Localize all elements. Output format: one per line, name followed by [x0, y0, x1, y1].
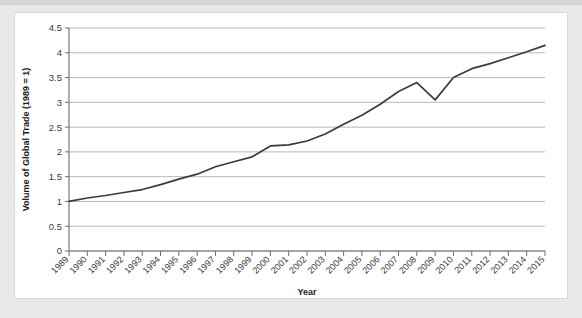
svg-text:2012: 2012 [470, 254, 491, 275]
svg-text:1991: 1991 [86, 254, 107, 275]
svg-text:1995: 1995 [159, 254, 180, 275]
svg-text:2002: 2002 [287, 254, 308, 275]
svg-text:1989: 1989 [49, 254, 70, 275]
svg-text:2014: 2014 [507, 254, 528, 275]
line-chart: 00.511.522.533.544.5 1989199019911992199… [15, 13, 567, 298]
svg-text:2001: 2001 [269, 254, 290, 275]
y-axis-title: Volume of Global Trade (1989 = 1) [21, 68, 31, 212]
svg-text:1.5: 1.5 [49, 171, 62, 182]
x-axis-ticks [69, 251, 545, 256]
chart-card: 00.511.522.533.544.5 1989199019911992199… [14, 12, 568, 299]
svg-text:2010: 2010 [434, 254, 455, 275]
svg-text:2007: 2007 [379, 254, 400, 275]
svg-text:0.5: 0.5 [49, 221, 62, 232]
svg-text:0: 0 [57, 245, 62, 256]
x-axis-title: Year [297, 287, 317, 297]
svg-text:2011: 2011 [452, 254, 473, 275]
svg-text:2008: 2008 [397, 254, 418, 275]
svg-text:2003: 2003 [305, 254, 326, 275]
svg-text:2005: 2005 [342, 254, 363, 275]
svg-text:3: 3 [57, 97, 62, 108]
y-axis-tick-labels: 00.511.522.533.544.5 [49, 22, 62, 256]
svg-text:3.5: 3.5 [49, 72, 62, 83]
svg-text:2006: 2006 [360, 254, 381, 275]
svg-text:1992: 1992 [104, 254, 125, 275]
svg-text:1997: 1997 [196, 254, 217, 275]
page-bottom-strip [0, 306, 582, 318]
svg-text:4: 4 [57, 47, 62, 58]
svg-text:4.5: 4.5 [49, 22, 62, 33]
svg-text:2: 2 [57, 146, 62, 157]
trade-volume-line [69, 45, 545, 201]
svg-text:1993: 1993 [122, 254, 143, 275]
svg-text:2000: 2000 [251, 254, 272, 275]
svg-text:1999: 1999 [232, 254, 253, 275]
chart-page: 00.511.522.533.544.5 1989199019911992199… [0, 0, 582, 318]
svg-text:1990: 1990 [67, 254, 88, 275]
svg-text:1994: 1994 [141, 254, 162, 275]
svg-text:2004: 2004 [324, 254, 345, 275]
gridlines [69, 28, 545, 251]
svg-text:2.5: 2.5 [49, 122, 62, 133]
svg-text:2015: 2015 [525, 254, 546, 275]
svg-text:1998: 1998 [214, 254, 235, 275]
svg-text:2009: 2009 [415, 254, 436, 275]
x-axis-tick-labels: 1989199019911992199319941995199619971998… [49, 254, 546, 275]
y-axis-ticks [65, 28, 69, 251]
svg-text:1: 1 [57, 196, 62, 207]
svg-text:2013: 2013 [489, 254, 510, 275]
page-top-strip [0, 0, 582, 5]
svg-text:1996: 1996 [177, 254, 198, 275]
